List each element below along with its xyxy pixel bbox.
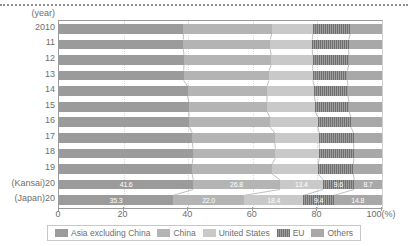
bar-row (59, 102, 382, 112)
y-axis-tick-label: 19 (45, 162, 55, 172)
y-axis-tick-label: 14 (45, 84, 55, 94)
legend-label: China (173, 228, 195, 238)
legend-item[interactable]: United States (203, 228, 270, 238)
bar-segment (350, 24, 382, 34)
legend-swatch-icon (55, 229, 68, 237)
bar-segment (272, 24, 313, 34)
legend-label: Asia excluding China (71, 228, 150, 238)
bar-segment (313, 24, 350, 34)
x-axis-labels: 020406080100(%) (0, 209, 408, 223)
bar-segment (272, 164, 318, 174)
legend-item[interactable]: Others (311, 228, 353, 238)
bar-segment (318, 117, 351, 127)
bar-segment (59, 164, 192, 174)
bar-segment: 8.7 (354, 180, 382, 190)
bar-segment (312, 40, 348, 50)
bar-segment (348, 86, 382, 96)
bar-row (59, 86, 382, 96)
y-axis-tick-label: 16 (45, 115, 55, 125)
legend-swatch-icon (277, 229, 290, 237)
bar-segment (275, 133, 320, 143)
bar-segment (59, 71, 184, 81)
y-axis-tick-label: (Kansai)20 (11, 178, 55, 188)
bar-segment (270, 40, 312, 50)
bar-segment (319, 149, 354, 159)
bar-row (59, 40, 382, 50)
bar-segment (59, 117, 189, 127)
bar-segment (59, 24, 183, 34)
legend-item[interactable]: Asia excluding China (55, 228, 150, 238)
bar-segment (267, 86, 314, 96)
bar-segment (319, 133, 353, 143)
legend-label: Others (327, 228, 353, 238)
chart-figure: (year) 2010111213141516171819(Kansai)20(… (0, 0, 408, 246)
bar-segment: 9.6 (323, 180, 354, 190)
bar-segment (351, 117, 382, 127)
bar-segment (192, 133, 274, 143)
bar-segment (347, 71, 382, 81)
bar-segment (313, 55, 349, 65)
bar-row (59, 71, 382, 81)
x-axis-tick (381, 207, 382, 211)
bar-segment (189, 102, 267, 112)
bar-row (59, 149, 382, 159)
legend-item[interactable]: EU (277, 228, 305, 238)
bar-row: 41.626.813.49.68.7 (59, 180, 382, 190)
bar-segment (188, 86, 267, 96)
legend-swatch-icon (157, 229, 170, 237)
bar-segment (353, 164, 382, 174)
bar-row (59, 133, 382, 143)
bar-segment (271, 55, 312, 65)
bar-segment (349, 40, 382, 50)
bar-segment: 18.4 (244, 195, 303, 205)
bar-segment (59, 149, 193, 159)
legend-swatch-icon (203, 229, 216, 237)
bar-segment (59, 133, 192, 143)
x-axis-tick (58, 207, 59, 211)
bar-segment: 9.4 (303, 195, 333, 205)
bar-segment (354, 149, 382, 159)
y-axis-tick-label: 13 (45, 69, 55, 79)
x-axis-tick (123, 207, 124, 211)
y-axis-tick-label: (Japan)20 (14, 193, 55, 203)
bar-row (59, 164, 382, 174)
bar-segment (349, 102, 382, 112)
bar-segment (349, 55, 382, 65)
bar-segment (313, 71, 348, 81)
legend-label: EU (293, 228, 305, 238)
bar-row (59, 24, 382, 34)
y-axis-caption: (year) (31, 8, 55, 18)
y-axis-tick-label: 18 (45, 146, 55, 156)
bar-segment (192, 164, 272, 174)
bar-segment (189, 117, 270, 127)
bar-segment (270, 117, 318, 127)
bar-segment (269, 71, 313, 81)
y-axis-tick-label: 15 (45, 100, 55, 110)
y-axis-tick-label: 11 (46, 37, 55, 47)
legend-swatch-icon (311, 229, 324, 237)
bar-segment: 35.3 (59, 195, 173, 205)
top-dotted-divider (0, 4, 408, 6)
bar-segment (275, 149, 319, 159)
bar-segment (59, 55, 184, 65)
bar-segment (59, 40, 183, 50)
x-axis-tick (316, 207, 317, 211)
bar-segment: 14.8 (334, 195, 382, 205)
bar-segment (314, 86, 348, 96)
y-axis-tick-label: 12 (45, 53, 55, 63)
y-axis-tick-label: 2010 (35, 22, 55, 32)
bar-segment (267, 102, 315, 112)
bar-segment: 13.4 (280, 180, 323, 190)
bar-segment (184, 71, 269, 81)
plot-area: 41.626.813.49.68.735.322.018.49.414.8 (58, 20, 383, 209)
bar-segment: 22.0 (173, 195, 244, 205)
bar-segment: 26.8 (193, 180, 279, 190)
bar-row (59, 55, 382, 65)
bar-segment (318, 164, 353, 174)
bar-row (59, 117, 382, 127)
legend-item[interactable]: China (157, 228, 195, 238)
y-axis-tick-label: 17 (45, 131, 55, 141)
legend-label: United States (219, 228, 270, 238)
bar-segment (354, 133, 382, 143)
bar-segment (59, 86, 188, 96)
